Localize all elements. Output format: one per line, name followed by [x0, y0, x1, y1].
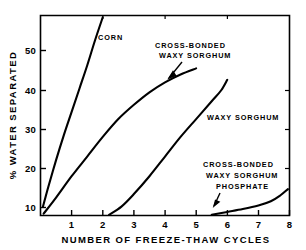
cross-bonded-waxy-sorghum-label-line2: WAXY SORGHUM [159, 51, 231, 60]
chart-background [0, 0, 306, 250]
x-tick-label-5: 5 [193, 219, 199, 230]
y-tick-label-10: 10 [25, 202, 36, 213]
phosphate-label-line2: WAXY SORGHUM [206, 171, 278, 180]
phosphate-label-line3: PHOSPHATE [216, 182, 269, 191]
x-tick-label-1: 1 [69, 219, 75, 230]
x-tick-label-3: 3 [131, 219, 136, 230]
cross-bonded-waxy-sorghum-label: CROSS-BONDED WAXY SORGHUM [155, 41, 231, 60]
y-tick-label-20: 20 [25, 163, 36, 174]
corn-label: CORN [98, 33, 123, 42]
y-axis-title: % WATER SEPARATED [7, 51, 18, 179]
cross-bonded-waxy-sorghum-label-line1: CROSS-BONDED [155, 41, 226, 50]
phosphate-label-line1: CROSS-BONDED [203, 160, 274, 169]
freeze-thaw-water-separation-chart: 50 40 30 20 10 1 2 3 4 5 6 7 8 NUMBER OF… [0, 0, 306, 250]
y-tick-label-30: 30 [25, 124, 36, 135]
x-axis-title: NUMBER OF FREEZE-THAW CYCLES [61, 234, 270, 245]
waxy-sorghum-label: WAXY SORGHUM [207, 113, 279, 122]
x-tick-label-6: 6 [225, 219, 230, 230]
y-tick-label-50: 50 [25, 45, 36, 56]
y-tick-label-40: 40 [25, 85, 36, 96]
x-tick-label-7: 7 [256, 219, 261, 230]
x-tick-label-2: 2 [100, 219, 105, 230]
x-tick-label-4: 4 [162, 219, 168, 230]
x-tick-label-8: 8 [287, 219, 292, 230]
